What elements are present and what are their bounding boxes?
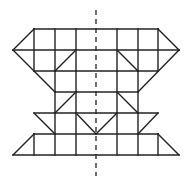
figure-edge (13, 29, 34, 50)
figure-edge (76, 113, 96, 134)
figure-edge (138, 113, 158, 134)
figure-edge (117, 92, 138, 113)
figure-edge (55, 92, 76, 113)
figure-edge (34, 113, 55, 134)
figure-edge (55, 50, 76, 71)
figure-edge (117, 50, 138, 71)
figure-edge (13, 134, 34, 155)
symmetry-diagram (0, 0, 193, 184)
figure-edge (158, 29, 179, 50)
figure-edge (158, 134, 179, 155)
figure-edge (96, 113, 117, 134)
